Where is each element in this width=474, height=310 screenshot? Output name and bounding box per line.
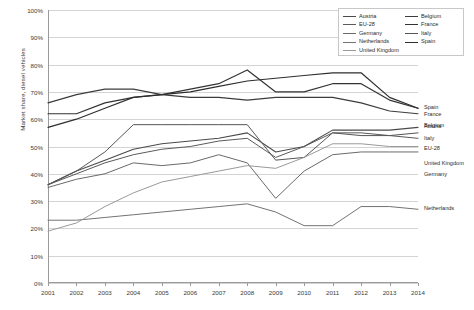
y-tick-label: 30% — [31, 198, 43, 205]
y-tick-label: 0% — [34, 280, 43, 287]
y-tick-label: 20% — [31, 225, 43, 232]
x-tick-mark — [76, 283, 77, 286]
series-end-label: Germany — [424, 172, 447, 178]
series-line — [48, 89, 418, 114]
chart-legend: AustriaEU-28GermanyNetherlandsUnited Kin… — [338, 8, 464, 56]
x-tick-label: 2006 — [183, 289, 197, 296]
legend-item-label: France — [421, 22, 438, 28]
legend-line-icon — [405, 16, 418, 17]
x-tick-label: 2013 — [383, 289, 397, 296]
gridline — [48, 283, 418, 284]
x-tick-label: 2007 — [212, 289, 226, 296]
legend-item[interactable]: Belgium — [405, 12, 441, 21]
x-tick-label: 2012 — [354, 289, 368, 296]
series-end-label: Netherlands — [424, 206, 454, 212]
legend-line-icon — [343, 50, 356, 51]
legend-line-icon — [405, 24, 418, 25]
chart-root: Market share, diesel vehicles 0%10%20%30… — [0, 0, 474, 310]
x-tick-label: 2002 — [70, 289, 84, 296]
legend-line-icon — [343, 24, 356, 25]
x-tick-mark — [333, 283, 334, 286]
x-tick-label: 2011 — [326, 289, 339, 296]
x-tick-label: 2001 — [41, 289, 55, 296]
series-end-label: Spain — [424, 105, 438, 111]
x-tick-mark — [304, 283, 305, 286]
series-line — [48, 125, 418, 185]
legend-item-label: EU-28 — [359, 22, 375, 28]
y-tick-label: 100% — [27, 7, 43, 14]
legend-line-icon — [343, 16, 356, 17]
legend-item-label: Germany — [359, 31, 382, 37]
legend-item[interactable]: Netherlands — [343, 38, 399, 47]
series-end-label: EU-28 — [424, 147, 440, 153]
legend-item-label: Belgium — [421, 14, 441, 20]
legend-item[interactable]: Austria — [343, 12, 399, 21]
y-tick-label: 90% — [31, 34, 43, 41]
x-tick-label: 2014 — [411, 289, 425, 296]
legend-item[interactable]: France — [405, 21, 441, 30]
series-end-label: United Kingdom — [424, 161, 464, 167]
legend-item[interactable]: United Kingdom — [343, 46, 399, 55]
legend-line-icon — [405, 33, 418, 34]
x-tick-label: 2008 — [240, 289, 254, 296]
y-axis-title: Market share, diesel vehicles — [19, 30, 26, 150]
x-tick-mark — [276, 283, 277, 286]
legend-item[interactable]: Italy — [405, 29, 441, 38]
x-tick-label: 2009 — [269, 289, 283, 296]
x-tick-label: 2003 — [98, 289, 112, 296]
x-tick-mark — [361, 283, 362, 286]
series-line — [48, 70, 418, 114]
x-tick-mark — [190, 283, 191, 286]
legend-column-right: BelgiumFranceItalySpain — [405, 12, 441, 46]
legend-item-label: Spain — [421, 39, 435, 45]
x-tick-mark — [162, 283, 163, 286]
y-tick-label: 80% — [31, 61, 43, 68]
series-end-label: Italy — [424, 136, 434, 142]
series-line — [48, 73, 418, 128]
legend-line-icon — [405, 42, 418, 43]
x-tick-mark — [133, 283, 134, 286]
legend-column-left: AustriaEU-28GermanyNetherlandsUnited Kin… — [343, 12, 399, 55]
legend-item-label: United Kingdom — [359, 48, 399, 54]
x-tick-mark — [105, 283, 106, 286]
legend-line-icon — [343, 33, 356, 34]
x-tick-label: 2004 — [126, 289, 140, 296]
x-tick-mark — [247, 283, 248, 286]
legend-item-label: Italy — [421, 31, 431, 37]
series-end-label: Austria — [424, 125, 441, 131]
x-tick-mark — [418, 283, 419, 286]
x-tick-label: 2005 — [155, 289, 169, 296]
legend-item[interactable]: Germany — [343, 29, 399, 38]
x-tick-mark — [390, 283, 391, 286]
x-tick-label: 2010 — [297, 289, 311, 296]
x-tick-mark — [48, 283, 49, 286]
legend-item[interactable]: Spain — [405, 38, 441, 47]
legend-item-label: Austria — [359, 14, 376, 20]
series-end-label: France — [424, 112, 441, 118]
y-tick-label: 40% — [31, 170, 43, 177]
legend-item-label: Netherlands — [359, 39, 389, 45]
y-tick-label: 70% — [31, 88, 43, 95]
x-tick-mark — [219, 283, 220, 286]
legend-item[interactable]: EU-28 — [343, 21, 399, 30]
y-tick-label: 10% — [31, 252, 43, 259]
y-tick-label: 60% — [31, 116, 43, 123]
series-line — [48, 152, 418, 198]
legend-line-icon — [343, 42, 356, 43]
y-tick-label: 50% — [31, 143, 43, 150]
